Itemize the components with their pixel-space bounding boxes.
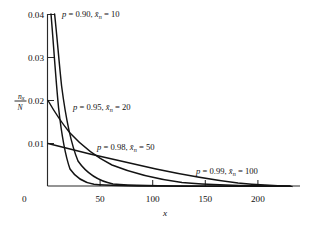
x-ticklabel-150: 150 — [198, 194, 212, 204]
annotation-p-0.99: p = 0.99, x̄n = 100 — [195, 166, 258, 177]
annotation-p-0.99-text: p = 0.99, x̄n = 100 — [195, 166, 258, 177]
y-ticklabel-3: 0.04 — [28, 10, 44, 20]
x-ticklabel-50: 50 — [96, 194, 106, 204]
annotation-p-0.90-text: p = 0.90, x̄n = 10 — [61, 9, 120, 20]
y-ticklabel-2: 0.03 — [28, 53, 44, 63]
x-ticklabel-0: 0 — [22, 194, 27, 204]
annotation-p-0.98: p = 0.98, x̄n = 50 — [96, 142, 155, 153]
y-ticklabel-1: 0.02 — [28, 96, 44, 106]
y-axis-label-denominator: N — [17, 103, 24, 112]
chart-background — [0, 0, 322, 230]
annotation-p-0.95-text: p = 0.95, x̄n = 20 — [72, 102, 131, 113]
annotation-p-0.98-text: p = 0.98, x̄n = 50 — [96, 142, 155, 153]
geometric-distribution-chart: 0.04 0.03 0.02 0.01 nx N 0 50 100 150 20… — [0, 0, 322, 230]
y-ticklabel-0: 0.01 — [28, 139, 44, 149]
annotation-p-0.95: p = 0.95, x̄n = 20 — [72, 102, 131, 113]
x-ticklabel-100: 100 — [146, 194, 160, 204]
x-ticklabel-200: 200 — [251, 194, 265, 204]
annotation-p-0.90: p = 0.90, x̄n = 10 — [61, 9, 120, 20]
